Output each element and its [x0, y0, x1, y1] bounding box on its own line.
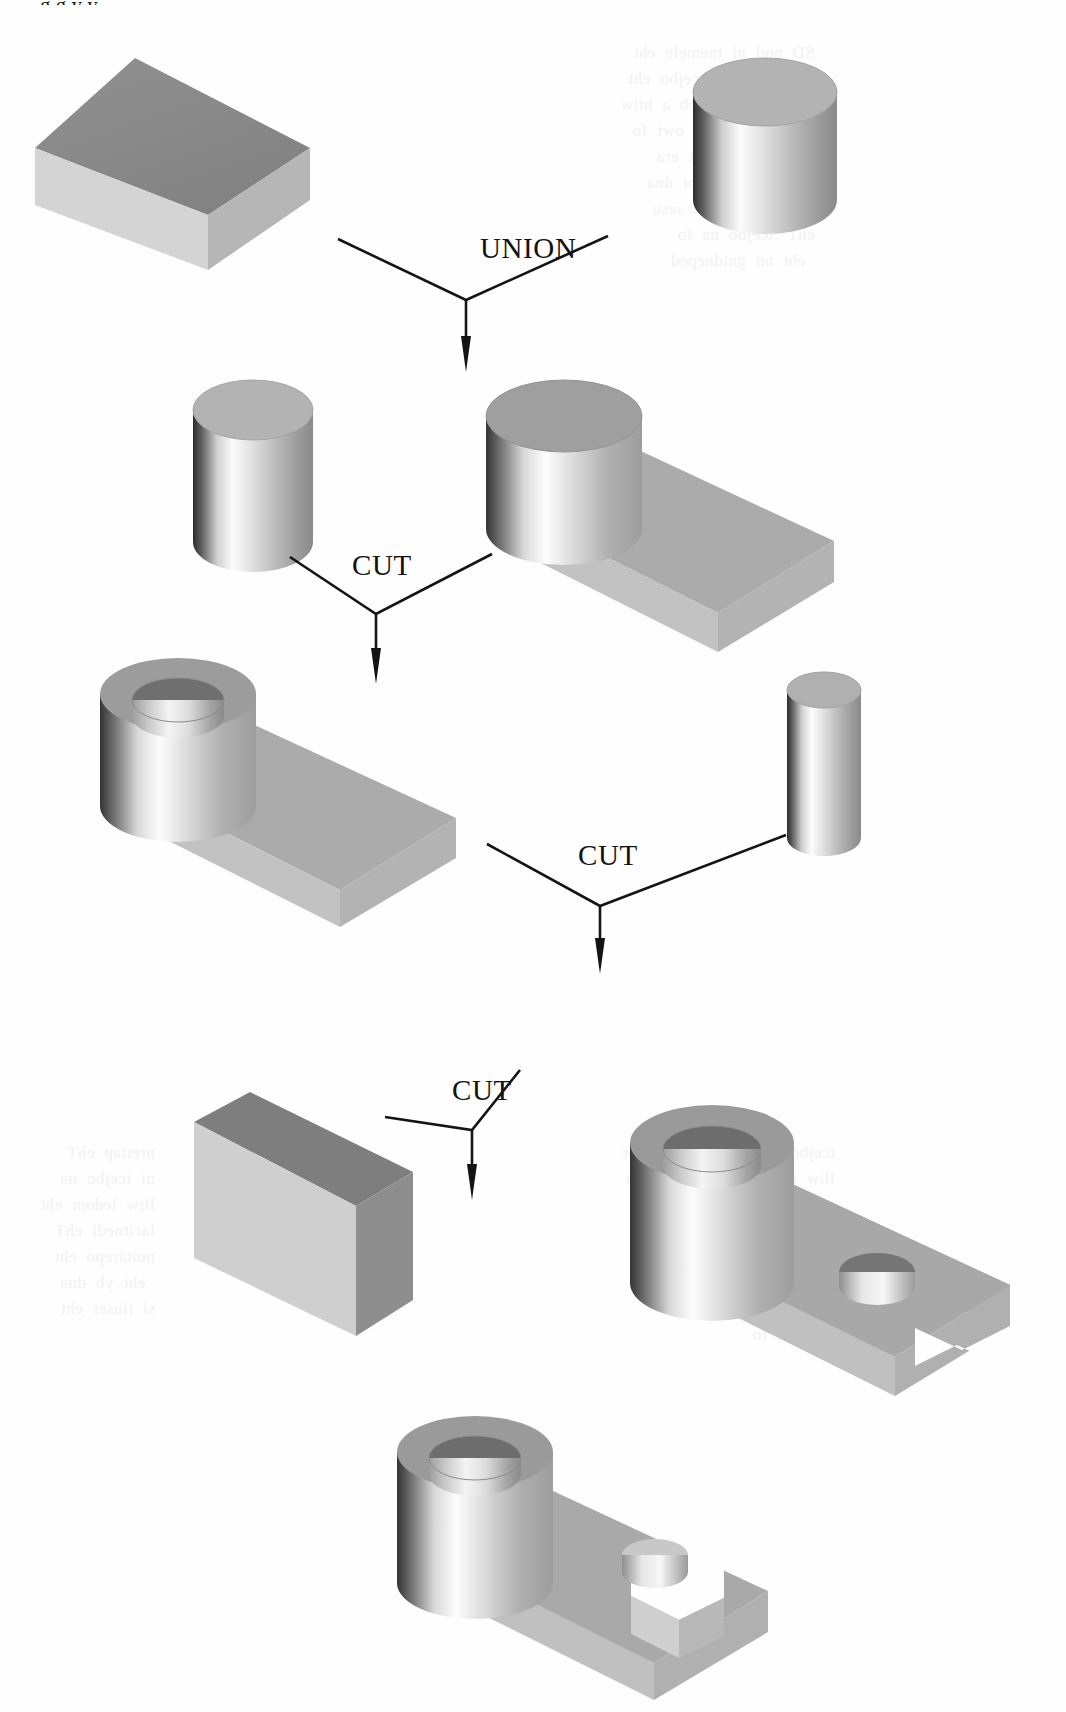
shape-cutting-cylinder-primitive — [193, 380, 313, 572]
figure-page: g g y y SD nod ni tnemele eht sa denifed… — [0, 0, 1066, 1712]
shape-small-cutting-cylinder-primitive — [787, 672, 861, 856]
shape-large-cylinder-primitive — [693, 58, 837, 234]
shape-cylinder-on-block-union-result — [486, 380, 834, 652]
shape-slab-cutting-block-primitive — [194, 1092, 413, 1336]
operation-label-cut-1: CUT — [352, 549, 412, 581]
shape-final-machined-part — [397, 1416, 768, 1700]
csg-diagram: UNION CUT — [0, 0, 1066, 1712]
shape-rectangular-block-primitive — [35, 58, 310, 270]
operation-label-cut-3: CUT — [452, 1074, 512, 1106]
shape-tube-on-block-cut-result — [100, 658, 456, 927]
operation-label-cut-2: CUT — [578, 839, 638, 871]
shape-tube-block-with-hole-cut-result — [630, 1105, 1010, 1396]
operation-label-union: UNION — [480, 232, 576, 264]
